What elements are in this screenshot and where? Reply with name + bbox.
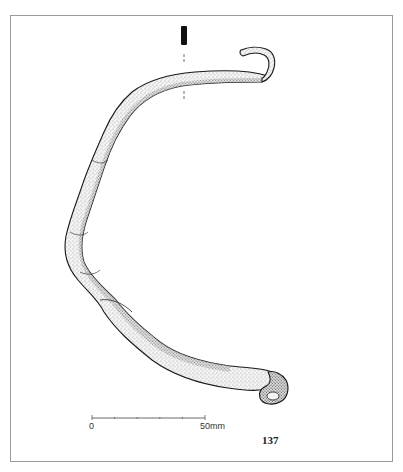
ring-body [65, 71, 272, 391]
artifact-drawing [0, 0, 403, 472]
scale-end-label: 50mm [200, 421, 225, 431]
ring-shading [79, 78, 262, 372]
cross-section-icon [181, 26, 187, 45]
figure-number: 137 [262, 434, 279, 446]
scale-start-label: 0 [89, 421, 94, 431]
knob-detail [267, 392, 279, 400]
scale-bar [92, 415, 205, 420]
